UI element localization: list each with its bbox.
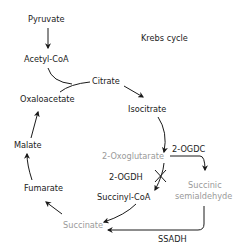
arrow-succinyl-coa-to-succinate xyxy=(104,204,136,222)
arrow-2-oxoglutarate-to-succinic-semialdehyde xyxy=(170,156,205,170)
node-acetyl-coa: Acetyl-CoA xyxy=(24,54,69,64)
enzyme-2-ogdc: 2-OGDC xyxy=(172,144,205,154)
arrow-isocitrate-to-2-oxoglutarate xyxy=(158,117,165,152)
enzyme-ssadh: SSADH xyxy=(158,234,187,244)
node-fumarate: Fumarate xyxy=(24,183,63,193)
node-isocitrate: Isocitrate xyxy=(128,104,166,114)
node-succinate: Succinate xyxy=(63,220,103,230)
node-2-oxoglutarate: 2-Oxoglutarate xyxy=(102,151,164,161)
arrow-acetyl-coa-join xyxy=(48,68,72,84)
node-succinyl-coa: Succinyl-CoA xyxy=(97,192,151,202)
enzyme-2-ogdh: 2-OGDH xyxy=(109,172,143,182)
krebs-cycle-diagram: Krebs cycle Pyruvate Acetyl-CoA Citrate … xyxy=(0,0,239,249)
node-succinic-semialdehyde-line1: Succinic xyxy=(188,180,222,190)
arrow-succinate-to-fumarate xyxy=(46,202,62,214)
arrow-malate-to-oxaloacetate xyxy=(31,112,38,138)
arrow-succinic-semialdehyde-to-succinate xyxy=(108,206,204,230)
arrow-oxaloacetate-join xyxy=(60,82,90,92)
node-oxaloacetate: Oxaloacetate xyxy=(20,94,75,104)
arrow-citrate-to-isocitrate xyxy=(124,86,143,97)
arrow-fumarate-to-malate xyxy=(27,154,32,180)
node-succinic-semialdehyde-line2: semialdehyde xyxy=(175,191,232,201)
node-citrate: Citrate xyxy=(92,76,120,86)
node-malate: Malate xyxy=(14,140,42,150)
blocked-step-x-icon xyxy=(155,170,166,182)
node-pyruvate: Pyruvate xyxy=(28,14,64,24)
diagram-title: Krebs cycle xyxy=(141,33,188,43)
